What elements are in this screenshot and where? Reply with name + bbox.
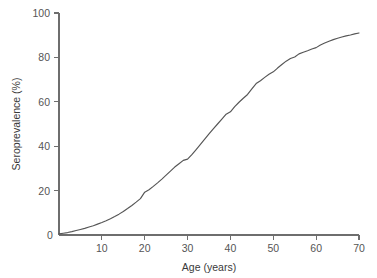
tick-marks-group [54, 13, 359, 240]
y-axis-title: Seroprevalence (%) [10, 78, 22, 171]
y-tick-label-100: 100 [32, 7, 50, 19]
y-tick-label-20: 20 [38, 185, 50, 197]
x-tick-label-70: 70 [353, 242, 365, 254]
y-tick-label-80: 80 [38, 51, 50, 63]
series-line-0 [59, 33, 359, 234]
data-series-group [59, 33, 359, 234]
x-tick-label-10: 10 [96, 242, 108, 254]
x-tick-label-30: 30 [182, 242, 194, 254]
y-tick-label-40: 40 [38, 140, 50, 152]
x-tick-label-50: 50 [267, 242, 279, 254]
y-tick-label-60: 60 [38, 96, 50, 108]
x-axis-title: Age (years) [182, 261, 236, 273]
axes-group [59, 13, 359, 235]
x-tick-label-0: 0 [47, 229, 53, 241]
y-tick-labels-group: 20406080100 [32, 7, 50, 197]
seroprevalence-line-chart: 010203040506070 20406080100 Age (years) … [0, 0, 377, 278]
chart-container: 010203040506070 20406080100 Age (years) … [0, 0, 377, 278]
x-tick-labels-group: 010203040506070 [47, 229, 365, 254]
x-tick-label-20: 20 [139, 242, 151, 254]
x-tick-label-40: 40 [225, 242, 237, 254]
x-tick-label-60: 60 [310, 242, 322, 254]
